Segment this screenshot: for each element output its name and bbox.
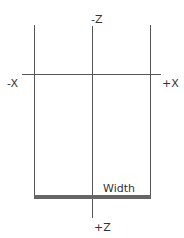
width-bar	[34, 195, 151, 199]
pos-x-label: +X	[162, 78, 179, 89]
right-vertical-line	[150, 25, 151, 199]
left-vertical-line	[34, 25, 35, 199]
width-label: Width	[103, 183, 135, 194]
neg-x-label: -X	[7, 78, 18, 89]
horizontal-line-x-axis	[22, 74, 161, 75]
center-vertical-line-z-axis	[92, 26, 93, 218]
pos-z-label: +Z	[94, 222, 111, 233]
neg-z-label: -Z	[91, 14, 103, 25]
